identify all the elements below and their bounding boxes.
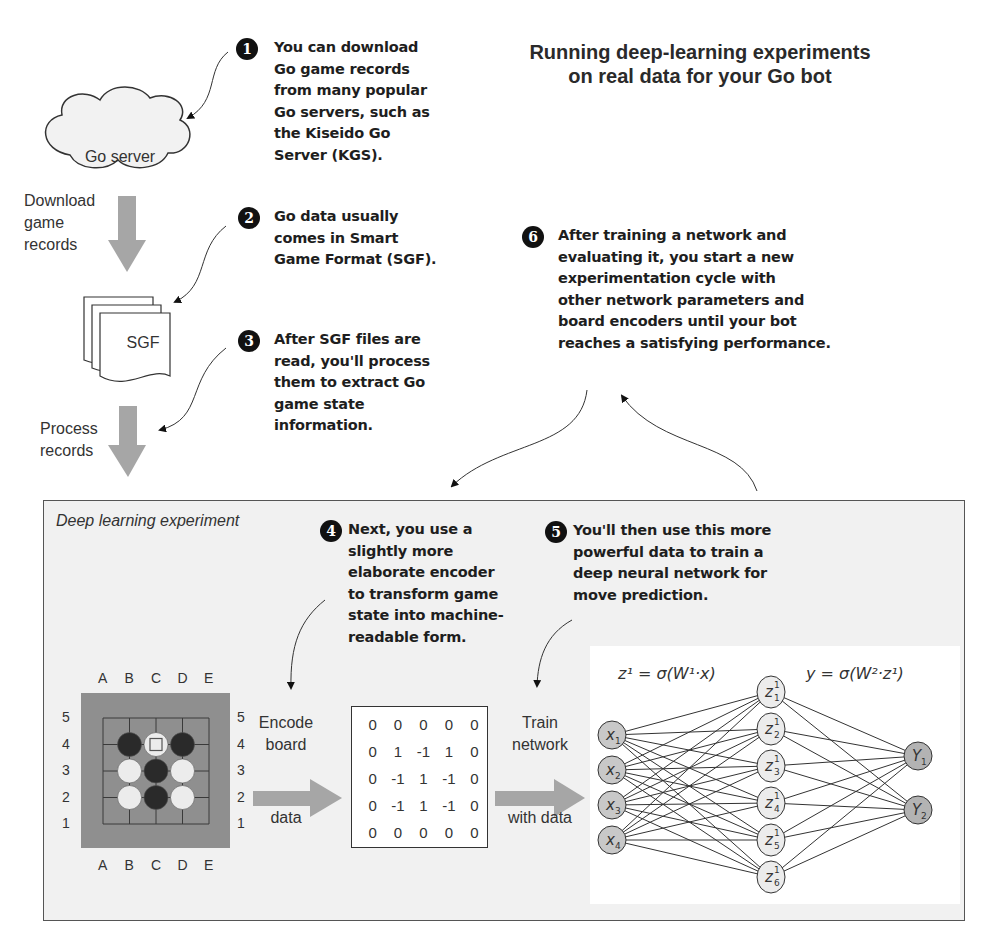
matrix-cell: 1 bbox=[411, 792, 436, 819]
node-label: z bbox=[764, 868, 774, 886]
callout-number-1: 1 bbox=[236, 38, 258, 60]
callout-text-1: You can download Go game records from ma… bbox=[274, 37, 494, 166]
board-column-label-top: B bbox=[125, 670, 134, 686]
network-edge bbox=[612, 729, 771, 770]
network-edge bbox=[612, 692, 771, 770]
board-column-label-bottom: B bbox=[125, 857, 134, 873]
output-node-Y1: Y1 bbox=[904, 742, 932, 770]
white-stone-D3 bbox=[171, 759, 195, 783]
hidden-node-z5: z51 bbox=[757, 824, 785, 856]
callout-number-4: 4 bbox=[320, 520, 342, 542]
white-stone-B3 bbox=[118, 759, 142, 783]
network-edge bbox=[612, 735, 771, 877]
svg-text:1: 1 bbox=[774, 754, 780, 764]
matrix-cell: 0 bbox=[360, 738, 385, 765]
encode-label: Encode board bbox=[252, 712, 320, 756]
input-node-x3: x3 bbox=[598, 791, 626, 819]
network-edge bbox=[771, 692, 918, 756]
svg-text:1: 1 bbox=[774, 791, 780, 801]
matrix-row: 00000 bbox=[360, 711, 487, 738]
network-nodes: x1x2x3x4z11z21z31z41z51z61Y1Y2 bbox=[598, 676, 932, 893]
svg-text:1: 1 bbox=[774, 693, 780, 703]
download-label: Download game records bbox=[24, 190, 95, 256]
svg-text:4: 4 bbox=[774, 804, 780, 814]
hidden-node-z2: z21 bbox=[757, 713, 785, 745]
network-edge bbox=[771, 766, 918, 810]
train-label-data: with data bbox=[490, 807, 590, 829]
board-column-label-top: E bbox=[204, 670, 213, 686]
network-edge bbox=[612, 729, 771, 735]
node-label: z bbox=[764, 757, 774, 775]
svg-text:1: 1 bbox=[774, 828, 780, 838]
network-edge bbox=[612, 840, 771, 877]
network-edge bbox=[771, 810, 918, 840]
board-column-label-bottom: D bbox=[178, 857, 188, 873]
formula-hidden-layer: z¹ = σ(W¹·x) bbox=[618, 664, 716, 683]
matrix-cell: 0 bbox=[462, 792, 487, 819]
board-column-label-bottom: C bbox=[151, 857, 161, 873]
formula-output-layer: y = σ(W²·z¹) bbox=[806, 664, 904, 683]
leader-line-1 bbox=[188, 52, 228, 118]
svg-text:3: 3 bbox=[774, 767, 780, 777]
encode-label-data: data bbox=[252, 807, 320, 829]
network-edge bbox=[612, 805, 771, 877]
hidden-node-z4: z41 bbox=[757, 787, 785, 819]
go-server-label: Go server bbox=[66, 146, 174, 168]
matrix-cell: 1 bbox=[385, 738, 410, 765]
callout-number-3: 3 bbox=[238, 330, 260, 352]
svg-text:2: 2 bbox=[921, 811, 927, 821]
white-stone-B2 bbox=[118, 786, 142, 810]
white-stone-D2 bbox=[171, 786, 195, 810]
white-stone-C4 bbox=[144, 733, 168, 757]
svg-text:3: 3 bbox=[615, 806, 621, 816]
svg-text:1: 1 bbox=[774, 680, 780, 690]
network-edge bbox=[771, 692, 918, 810]
go-board bbox=[81, 693, 230, 848]
node-label: x bbox=[605, 796, 615, 814]
matrix-cell: -1 bbox=[436, 792, 461, 819]
matrix-cell: 0 bbox=[385, 819, 410, 846]
matrix-cell: 0 bbox=[462, 765, 487, 792]
matrix-cell: 0 bbox=[360, 819, 385, 846]
matrix-cell: 0 bbox=[360, 765, 385, 792]
train-label: Train network bbox=[490, 712, 590, 756]
callout-number-6: 6 bbox=[522, 226, 544, 248]
node-label: x bbox=[605, 761, 615, 779]
matrix-cell: 1 bbox=[411, 765, 436, 792]
matrix-cell: 0 bbox=[411, 819, 436, 846]
node-label: x bbox=[605, 831, 615, 849]
callout-text-2: Go data usually comes in Smart Game Form… bbox=[274, 206, 514, 271]
board-row-label-right: 4 bbox=[237, 736, 245, 752]
network-edge bbox=[771, 803, 918, 810]
node-label: x bbox=[605, 726, 615, 744]
input-node-x2: x2 bbox=[598, 756, 626, 784]
matrix-row: 0-11-10 bbox=[360, 765, 487, 792]
matrix-cell: 0 bbox=[462, 819, 487, 846]
matrix-cell: 0 bbox=[436, 711, 461, 738]
black-stone-B4 bbox=[118, 733, 142, 757]
leader-line-2 bbox=[175, 226, 226, 302]
matrix-row: 0-11-10 bbox=[360, 792, 487, 819]
network-edge bbox=[771, 729, 918, 756]
black-stone-C2 bbox=[144, 786, 168, 810]
matrix-cell: -1 bbox=[385, 792, 410, 819]
board-row-label-left: 1 bbox=[62, 815, 70, 831]
board-row-label-right: 2 bbox=[237, 789, 245, 805]
board-row-label-right: 1 bbox=[237, 815, 245, 831]
board-row-label-right: 3 bbox=[237, 762, 245, 778]
matrix-cell: 0 bbox=[462, 711, 487, 738]
leader-line-4 bbox=[291, 600, 325, 688]
input-node-x4: x4 bbox=[598, 826, 626, 854]
black-stone-D4 bbox=[171, 733, 195, 757]
board-row-label-left: 5 bbox=[62, 709, 70, 725]
cycle-arrow-up bbox=[622, 396, 757, 491]
board-column-label-bottom: A bbox=[98, 857, 107, 873]
svg-text:1: 1 bbox=[774, 865, 780, 875]
matrix-cell: 0 bbox=[360, 711, 385, 738]
node-label: z bbox=[764, 683, 774, 701]
matrix-cell: 0 bbox=[436, 819, 461, 846]
board-column-label-top: C bbox=[151, 670, 161, 686]
svg-text:1: 1 bbox=[774, 717, 780, 727]
encoded-board-matrix: 0000001-1100-11-100-11-1000000 bbox=[351, 706, 488, 848]
matrix-cell: 0 bbox=[462, 738, 487, 765]
